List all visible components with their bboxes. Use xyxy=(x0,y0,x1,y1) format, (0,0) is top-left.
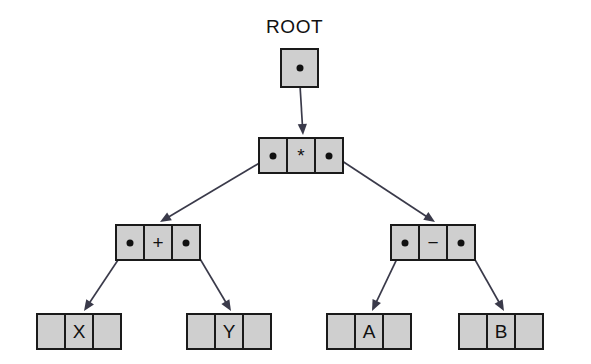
value-cell: + xyxy=(143,224,173,261)
value-cell: B xyxy=(486,313,516,350)
pointer-dot-icon xyxy=(402,239,409,246)
pointer-dot-icon xyxy=(326,152,333,159)
edge-multiply-to-plus xyxy=(160,155,273,222)
value-cell: * xyxy=(286,137,316,174)
edge-line xyxy=(165,155,273,219)
pointer-dot-icon xyxy=(458,239,465,246)
null-pointer-cell xyxy=(458,313,488,350)
edge-line xyxy=(333,155,430,219)
edge-arrowhead-icon xyxy=(423,212,435,222)
node-value-label: B xyxy=(495,322,508,341)
operator-node-minus: − xyxy=(390,224,476,261)
leaf-node-a: A xyxy=(326,313,412,350)
node-value-label: + xyxy=(152,233,163,252)
pointer-cell xyxy=(115,224,145,261)
edge-arrowhead-icon xyxy=(221,299,231,311)
null-pointer-cell xyxy=(242,313,272,350)
edge-arrowhead-icon xyxy=(298,124,307,135)
pointer-cell xyxy=(314,137,344,174)
root-label: ROOT xyxy=(266,16,323,38)
pointer-cell xyxy=(258,137,288,174)
edge-arrowhead-icon xyxy=(84,299,94,311)
null-pointer-cell xyxy=(186,313,216,350)
pointer-dot-icon xyxy=(127,239,134,246)
edge-arrowhead-icon xyxy=(160,212,172,222)
leaf-node-b: B xyxy=(458,313,544,350)
null-pointer-cell xyxy=(326,313,356,350)
pointer-dot-icon xyxy=(183,239,190,246)
operator-node-multiply: * xyxy=(258,137,344,174)
node-value-label: A xyxy=(363,322,376,341)
pointer-cell xyxy=(171,224,201,261)
pointer-dot-icon xyxy=(296,65,303,72)
value-cell: Y xyxy=(214,313,244,350)
null-pointer-cell xyxy=(92,313,122,350)
node-value-label: * xyxy=(297,146,304,165)
node-value-label: − xyxy=(427,233,438,252)
null-pointer-cell xyxy=(514,313,544,350)
leaf-node-x: X xyxy=(36,313,122,350)
operator-node-plus: + xyxy=(115,224,201,261)
value-cell: − xyxy=(418,224,448,261)
leaf-node-y: Y xyxy=(186,313,272,350)
edge-multiply-to-minus xyxy=(333,155,435,222)
root-pointer-node xyxy=(280,48,319,88)
node-value-label: X xyxy=(73,322,86,341)
pointer-dot-icon xyxy=(270,152,277,159)
null-pointer-cell xyxy=(382,313,412,350)
node-value-label: Y xyxy=(223,322,236,341)
value-cell: X xyxy=(64,313,94,350)
null-pointer-cell xyxy=(36,313,66,350)
pointer-cell xyxy=(446,224,476,261)
pointer-cell xyxy=(390,224,420,261)
value-cell: A xyxy=(354,313,384,350)
binary-expression-tree-diagram: ROOT *+−XYAB xyxy=(0,0,591,364)
pointer-cell xyxy=(280,48,319,88)
